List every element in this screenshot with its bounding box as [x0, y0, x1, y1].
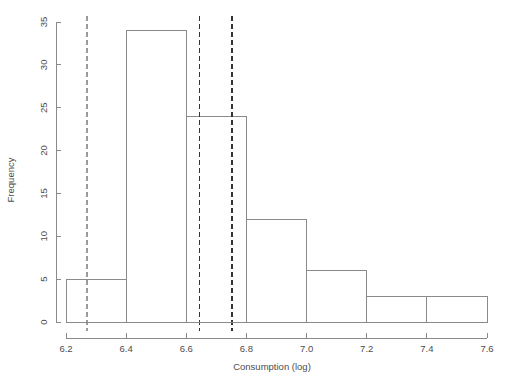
histogram-bar: [126, 31, 186, 322]
y-tick-label: 20: [38, 145, 49, 156]
histogram-bar: [367, 296, 427, 322]
histogram-bar: [307, 271, 367, 322]
x-tick-label: 7.0: [300, 343, 313, 354]
x-tick-label: 7.4: [420, 343, 433, 354]
y-axis-title: Frequency: [5, 157, 16, 202]
x-tick-label: 6.4: [120, 343, 133, 354]
x-tick-label: 6.2: [59, 343, 72, 354]
y-tick-label: 30: [38, 60, 49, 71]
reference-lines-group: [87, 16, 232, 331]
histogram-figure: 6.26.46.66.87.07.27.47.6 05101520253035 …: [0, 0, 506, 385]
histogram-bar: [427, 296, 487, 322]
x-tick-label: 7.6: [480, 343, 493, 354]
x-tick-label: 6.6: [180, 343, 193, 354]
histogram-bar: [66, 279, 126, 322]
y-tick-label: 35: [38, 17, 49, 28]
histogram-plot: 6.26.46.66.87.07.27.47.6 05101520253035 …: [0, 0, 506, 385]
y-axis: [56, 22, 61, 322]
x-tick-labels-group: 6.26.46.66.87.07.27.47.6: [59, 343, 493, 354]
y-tick-label: 15: [38, 188, 49, 199]
histogram-bar: [186, 116, 246, 322]
y-tick-labels-group: 05101520253035: [38, 17, 49, 325]
histogram-bar: [246, 219, 306, 322]
x-axis: [66, 322, 487, 338]
y-tick-label: 10: [38, 231, 49, 242]
x-axis-title: Consumption (log): [233, 361, 311, 372]
histogram-bars-group: [66, 31, 487, 322]
x-tick-label: 7.2: [360, 343, 373, 354]
y-tick-label: 0: [38, 319, 49, 324]
x-tick-label: 6.8: [240, 343, 253, 354]
y-tick-label: 25: [38, 102, 49, 113]
y-tick-label: 5: [38, 276, 49, 281]
